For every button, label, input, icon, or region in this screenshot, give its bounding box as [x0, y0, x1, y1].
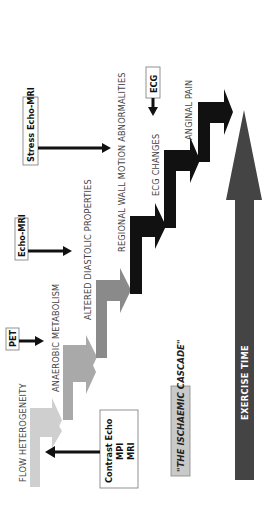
step-altered-diastolic	[96, 268, 131, 358]
echo-mri-label: Echo-MRI	[17, 214, 27, 257]
contrast-echo-label: Contrast Echo	[104, 418, 114, 483]
contrast-arrow-head	[45, 446, 55, 458]
mpi-label: MPI	[115, 443, 125, 460]
ischaemic-cascade-diagram: EXERCISE TIME "THE ISCHAEMIC CASCADE" FL…	[0, 0, 268, 508]
echo-mri-arrow-head	[63, 246, 72, 256]
ecg-arrow-head	[148, 107, 158, 116]
label-wall-motion: REGIONAL WALL MOTION ABNORMALITIES	[117, 72, 127, 252]
label-anginal-pain: ANGINAL PAIN	[184, 80, 194, 140]
stress-echo-mri-arrow-head	[102, 143, 111, 153]
label-anaerobic-metabolism: ANAEROBIC METABOLISM	[51, 284, 61, 392]
exercise-time-label: EXERCISE TIME	[240, 345, 250, 420]
step-ecg-changes	[164, 137, 200, 228]
stress-echo-mri-label: Stress Echo-MRI	[26, 87, 36, 162]
label-ecg-changes: ECG CHANGES	[151, 134, 161, 196]
label-altered-diastolic: ALTERED DIASTOLIC PROPERTIES	[83, 179, 93, 320]
step-anginal-pain	[198, 89, 233, 162]
pet-arrow-head	[35, 336, 44, 346]
exercise-time-arrow	[226, 110, 262, 480]
step-wall-motion	[130, 203, 166, 294]
label-flow-heterogeneity: FLOW HETEROGENEITY	[18, 383, 28, 482]
pet-label: PET	[8, 329, 18, 347]
step-flow-heterogeneity-head	[30, 398, 62, 487]
mri-label: MRI	[126, 443, 136, 461]
diagram-title: "THE ISCHAEMIC CASCADE"	[176, 340, 186, 472]
ecg-label: ECG	[149, 74, 159, 93]
